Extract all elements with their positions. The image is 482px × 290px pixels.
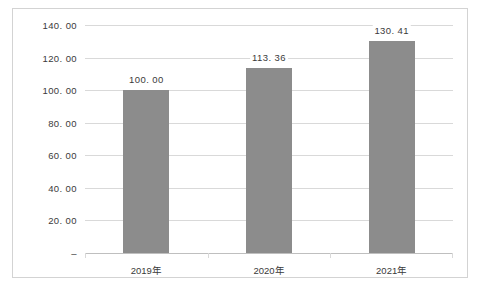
bar[interactable] <box>123 90 169 253</box>
bar-value-label: 130. 41 <box>372 25 411 36</box>
y-axis-tick-label: 80. 00 <box>48 117 77 128</box>
bars-layer: 100. 00113. 36130. 41 <box>85 25 453 253</box>
x-axis-category-label: 2020年 <box>253 263 284 277</box>
bar-value-label: 100. 00 <box>127 74 166 85</box>
category-separator-tick <box>85 253 86 258</box>
y-axis-tick-label: 20. 00 <box>48 215 77 226</box>
x-axis-category-label: 2021年 <box>376 263 407 277</box>
y-axis-tick-label: 40. 00 <box>48 182 77 193</box>
bar[interactable] <box>369 41 415 253</box>
y-axis-tick-label: 140. 00 <box>43 20 78 31</box>
category-separator-tick <box>208 253 209 258</box>
x-axis-category-label: 2019年 <box>131 263 162 277</box>
category-separator-tick <box>330 253 331 258</box>
y-axis-tick-label: 60. 00 <box>48 150 77 161</box>
bar-chart: 140. 00120. 00100. 0080. 0060. 0040. 002… <box>0 0 482 290</box>
y-axis-tick-label: – <box>71 248 77 259</box>
plot-area: 140. 00120. 00100. 0080. 0060. 0040. 002… <box>85 25 453 253</box>
bar-value-label: 113. 36 <box>250 52 288 63</box>
y-axis-tick-label: 100. 00 <box>43 85 78 96</box>
category-axis: 2019年2020年2021年 <box>85 253 453 279</box>
chart-frame: 140. 00120. 00100. 0080. 0060. 0040. 002… <box>12 8 468 278</box>
category-separator-tick <box>452 253 453 258</box>
y-axis-tick-label: 120. 00 <box>43 52 78 63</box>
bar[interactable] <box>246 68 292 253</box>
